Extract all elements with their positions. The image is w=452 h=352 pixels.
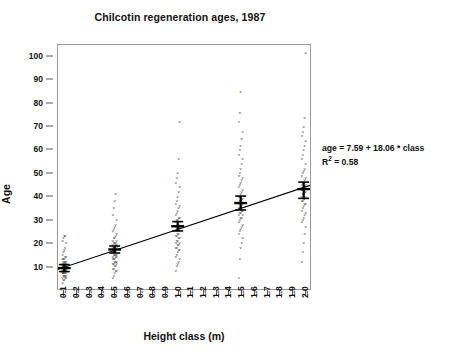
y-tick-mark (46, 243, 53, 244)
data-point-marker: v (64, 245, 67, 250)
data-point-marker: v (113, 205, 116, 210)
data-point-marker: v (304, 138, 307, 143)
x-tick-label: 0.3 (84, 286, 94, 298)
x-tick-label: 0.5 (109, 286, 119, 298)
y-tick-label: 100 (29, 51, 43, 61)
data-point-marker: v (238, 152, 241, 157)
r-squared-text: R2 = 0.58 (322, 154, 424, 168)
y-tick-label: 90 (34, 74, 43, 84)
x-tick-label: 1.0 (173, 286, 183, 298)
data-point-marker: v (177, 156, 180, 161)
data-point-marker: v (65, 259, 68, 264)
y-tick-mark (46, 102, 53, 103)
data-point-marker: v (301, 133, 304, 138)
y-tick-mark (46, 55, 53, 56)
chart-figure: Chilcotin regeneration ages, 1987 Age 10… (0, 0, 452, 352)
data-point-marker: v (241, 222, 244, 227)
data-point-marker: v (240, 166, 243, 171)
data-point-marker: v (112, 212, 115, 217)
data-point-marker: v (239, 110, 242, 115)
data-point-marker: v (178, 184, 181, 189)
data-point-marker: v (304, 224, 307, 229)
x-tick-label: 1.1 (185, 286, 195, 298)
data-point-marker: v (178, 203, 181, 208)
x-tick-label: 1.3 (211, 286, 221, 298)
x-tick-label: 1.5 (236, 286, 246, 298)
data-point-marker: v (178, 235, 181, 240)
x-tick-label: 1.4 (223, 286, 233, 298)
regression-line (58, 185, 310, 269)
data-point-marker: v (302, 249, 305, 254)
chart-title: Chilcotin regeneration ages, 1987 (0, 11, 360, 23)
data-point-marker: v (114, 222, 117, 227)
data-point-marker: v (241, 129, 244, 134)
x-tick-label: 1.2 (198, 286, 208, 298)
data-point-marker: v (303, 115, 306, 120)
data-point-marker: v (177, 194, 180, 199)
data-point-marker: v (115, 231, 118, 236)
x-axis: 0.10.20.30.40.50.60.70.80.91.01.11.21.31… (57, 290, 311, 330)
x-tick-label: 0.6 (122, 286, 132, 298)
data-point-marker: v (238, 275, 241, 280)
data-point-marker: v (115, 217, 118, 222)
data-point-marker: v (241, 175, 244, 180)
data-point-marker: v (65, 254, 68, 259)
data-point-marker: v (241, 156, 244, 161)
data-point-marker: v (303, 147, 306, 152)
data-point-marker: v (304, 210, 307, 215)
x-tick-label: 1.8 (274, 286, 284, 298)
y-axis: Age 102030405060708090100 (0, 44, 57, 290)
data-point-marker: v (115, 259, 118, 264)
x-tick-label: 0.2 (71, 286, 81, 298)
x-tick-label: 0.8 (147, 286, 157, 298)
y-tick-label: 60 (34, 144, 43, 154)
data-point-marker: v (64, 233, 67, 238)
regression-annotation: age = 7.59 + 18.06 * class R2 = 0.58 (322, 142, 424, 169)
data-point-cluster: vvvvvvvvvvvvvvvvvvvvvvvvvvvvvvvvvvvvvvvv… (108, 191, 121, 280)
data-point-marker: v (177, 189, 180, 194)
x-tick-label: 0.1 (58, 286, 68, 298)
data-point-marker: v (304, 175, 307, 180)
data-point-marker: v (240, 89, 243, 94)
data-point-marker: v (239, 147, 242, 152)
data-point-marker: v (178, 240, 181, 245)
x-axis-title: Height class (m) (57, 330, 311, 342)
data-point-marker: v (177, 170, 180, 175)
y-tick-mark (46, 219, 53, 220)
data-point-cluster: vvvvvvvvvvvvvvvvvvvvvvvvvvvvvvvvvvvvvvvv… (234, 89, 247, 280)
y-tick-mark (46, 266, 53, 267)
y-tick-label: 70 (34, 121, 43, 131)
data-point-marker: v (239, 256, 242, 261)
x-tick-label: 1.6 (249, 286, 259, 298)
data-point-marker: v (240, 143, 243, 148)
y-tick-label: 40 (34, 191, 43, 201)
y-tick-mark (46, 149, 53, 150)
data-point-marker: v (240, 161, 243, 166)
y-tick-label: 80 (34, 98, 43, 108)
data-point-marker: v (303, 231, 306, 236)
y-tick-mark (46, 196, 53, 197)
data-point-marker: v (115, 238, 118, 243)
y-tick-label: 30 (34, 215, 43, 225)
data-point-marker: v (241, 235, 244, 240)
y-tick-label: 50 (34, 168, 43, 178)
data-point-marker: v (240, 136, 243, 141)
data-point-marker: v (238, 119, 241, 124)
data-point-marker: v (301, 259, 304, 264)
x-tick-label: 0.9 (160, 286, 170, 298)
regression-equation-text: age = 7.59 + 18.06 * class (322, 142, 424, 154)
data-point-marker: v (65, 240, 68, 245)
data-point-marker: v (304, 161, 307, 166)
data-point-marker: v (178, 215, 181, 220)
plot-canvas: vvvvvvvvvvvvvvvvvvvvvvvvvvvvvvvvvvvvvvvv… (58, 45, 310, 289)
data-point-marker: v (302, 129, 305, 134)
data-point-marker: v (115, 268, 118, 273)
data-point-cluster: vvvvvvvvvvvvvvvvvvvvvvvvvvvvvvvvvvvvvvvv… (297, 50, 310, 264)
data-point-marker: v (302, 152, 305, 157)
y-tick-mark (46, 126, 53, 127)
data-point-marker: v (178, 119, 181, 124)
y-tick-mark (46, 172, 53, 173)
y-tick-label: 20 (34, 238, 43, 248)
data-point-marker: v (301, 156, 304, 161)
x-tick-label: 0.7 (135, 286, 145, 298)
